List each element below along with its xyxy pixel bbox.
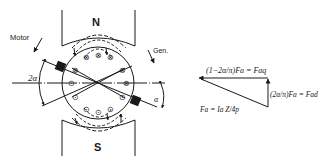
conductor: ⊗ (107, 53, 114, 62)
conductor: ⊗ (83, 53, 90, 62)
conductor: ⊗ (119, 66, 126, 75)
vector-diagram (199, 78, 268, 107)
motor-label: Motor (10, 33, 30, 42)
north-pole-label: N (92, 16, 100, 28)
conductor: ⊙ (68, 79, 75, 88)
generator-label: Gen. (153, 47, 168, 54)
conductor: ⊗ (95, 51, 102, 60)
conductor: ⊗ (123, 79, 130, 88)
dc-machine-diagram: ⊗ ⊗ ⊗ ⊗ ⊗ ⊙ ⊗ ⊙ ⊙ ⊙ ⊙ ⊙ N S Motor Gen. 2… (0, 0, 326, 165)
motor-arrow (34, 38, 42, 52)
conductor: ⊗ (72, 66, 79, 75)
conductor: ⊙ (107, 105, 114, 114)
conductors: ⊗ ⊗ ⊗ ⊗ ⊗ ⊙ ⊗ ⊙ ⊙ ⊙ ⊙ ⊙ (68, 51, 130, 117)
conductor: ⊙ (95, 108, 102, 117)
conductor: ⊙ (83, 105, 90, 114)
fad-label: (2α/π)Fa = Fad (270, 90, 318, 99)
faq-label: (1−2α/π)Fa = Faq (206, 66, 266, 75)
two-alpha-label: 2α (28, 73, 38, 83)
south-pole-label: S (94, 141, 101, 153)
fa-label: Fa = Ia Z/4p (199, 105, 239, 114)
fa-resultant (201, 79, 268, 107)
alpha-label: α (154, 95, 159, 104)
conductor: ⊙ (72, 93, 79, 102)
alpha-arc (161, 84, 164, 108)
conductor: ⊙ (119, 93, 126, 102)
